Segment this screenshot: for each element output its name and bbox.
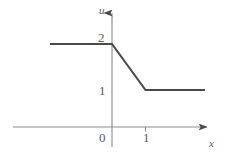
y-axis-label: u bbox=[99, 5, 105, 16]
x-tick-label-1: 1 bbox=[143, 131, 150, 144]
function-curve bbox=[50, 44, 205, 90]
function-graph-figure: u x 2 1 0 1 bbox=[0, 0, 228, 158]
y-tick-label-2: 2 bbox=[98, 31, 105, 44]
y-tick-label-1: 1 bbox=[99, 84, 106, 97]
plot-canvas bbox=[0, 0, 228, 158]
x-axis-label: x bbox=[209, 138, 214, 149]
origin-label: 0 bbox=[99, 131, 106, 144]
